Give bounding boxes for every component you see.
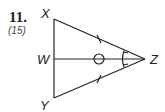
angle-tick-2: [123, 64, 128, 65]
vertex-label-w: W: [37, 52, 51, 67]
vertex-label-y: Y: [40, 98, 50, 112]
vertex-label-x: X: [40, 6, 51, 21]
vertex-label-z: Z: [149, 52, 159, 67]
triangle-diagram: X W Y Z: [0, 0, 165, 112]
